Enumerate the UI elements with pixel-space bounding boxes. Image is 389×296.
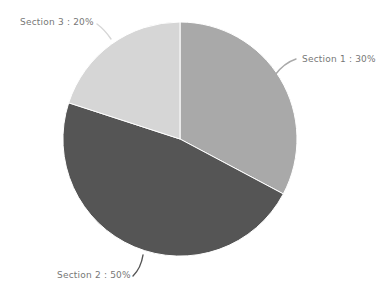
pie-chart: Section 3 : 20% Section 1 : 30% Section … <box>0 0 389 296</box>
label-section-2: Section 2 : 50% <box>57 270 131 280</box>
leader-line-section-3 <box>97 24 111 39</box>
label-section-1: Section 1 : 30% <box>302 54 376 64</box>
leader-line-section-2 <box>133 255 143 276</box>
label-section-3: Section 3 : 20% <box>20 17 94 27</box>
pie-chart-svg <box>0 0 389 296</box>
leader-line-section-1 <box>275 59 296 75</box>
